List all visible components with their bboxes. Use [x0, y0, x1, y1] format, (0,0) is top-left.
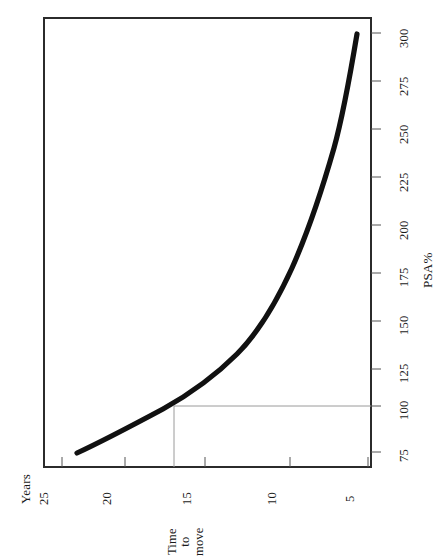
years-axis-title: Years [19, 474, 33, 504]
time-to-move-line-3: move [193, 527, 206, 556]
psa-tick-label-75: 75 [398, 449, 411, 462]
psa-tick-label-275: 275 [398, 77, 411, 96]
psa-tick-label-300: 300 [398, 29, 411, 48]
chart-canvas [0, 0, 437, 559]
time-to-move-annotation: Time to move [166, 527, 206, 556]
psa-axis-title: PSA% [421, 253, 435, 288]
years-tick-label-10: 10 [266, 492, 279, 505]
psa-tick-label-175: 175 [398, 268, 411, 287]
years-axis-ticks [62, 457, 368, 467]
time-to-move-line-2: to [179, 527, 192, 556]
psa-tick-label-100: 100 [398, 401, 411, 420]
years-tick-label-25: 25 [38, 492, 51, 505]
psa-tick-label-125: 125 [398, 364, 411, 383]
psa-tick-label-150: 150 [398, 316, 411, 335]
years-tick-label-15: 15 [181, 492, 194, 505]
psa-tick-label-250: 250 [398, 125, 411, 144]
annotation-guide-lines [174, 406, 371, 467]
data-curve-series-0 [77, 34, 357, 453]
psa-tick-label-225: 225 [398, 173, 411, 192]
psa-tick-label-200: 200 [398, 221, 411, 240]
psa-axis-ticks [371, 33, 381, 452]
years-tick-label-20: 20 [101, 492, 114, 505]
years-tick-label-5: 5 [344, 496, 357, 502]
time-to-move-line-1: Time [166, 527, 179, 556]
chart-figure: 25 20 15 10 5 Years 75 100 125 150 175 2… [0, 0, 437, 559]
